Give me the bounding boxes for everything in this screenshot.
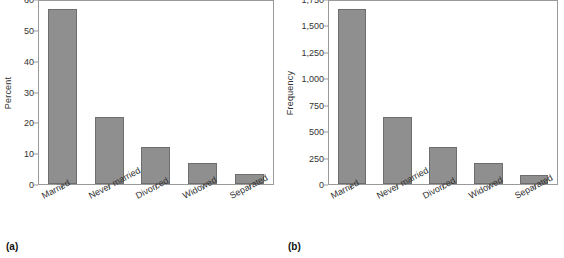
y-tick-label: 500 — [309, 127, 324, 137]
x-axis-tick-labels-a: MarriedNever marriedDivorcedWidowedSepar… — [38, 192, 274, 242]
y-tick-mark — [324, 79, 328, 80]
bar-slot — [226, 1, 273, 184]
plot-area-b — [328, 0, 558, 185]
y-tick-label: 50 — [24, 26, 34, 36]
bar-series-a — [39, 1, 273, 184]
y-tick-mark — [34, 61, 38, 62]
y-axis-tick-labels-b: 02505007501,0001,2501,5001,750 — [282, 0, 324, 185]
y-tick-mark — [324, 158, 328, 159]
y-tick-label: 1,500 — [301, 21, 324, 31]
y-tick-mark — [34, 92, 38, 93]
y-tick-mark — [34, 185, 38, 186]
y-tick-mark — [324, 0, 328, 1]
y-tick-mark — [324, 52, 328, 53]
y-tick-label: 30 — [24, 88, 34, 98]
y-tick-label: 1,000 — [301, 74, 324, 84]
y-tick-label: 40 — [24, 57, 34, 67]
y-tick-label: 20 — [24, 118, 34, 128]
panel-caption-b: (b) — [288, 241, 301, 252]
x-axis-tick-labels-b: MarriedNever marriedDivorcedWidowedSepar… — [328, 192, 558, 242]
y-tick-mark — [324, 105, 328, 106]
y-tick-label: 10 — [24, 149, 34, 159]
y-tick-mark — [34, 123, 38, 124]
bar-series-b — [329, 1, 557, 184]
y-tick-label: 60 — [24, 0, 34, 5]
y-tick-label: 1,250 — [301, 48, 324, 58]
plot-area-a — [38, 0, 274, 185]
y-tick-label: 250 — [309, 154, 324, 164]
panel-caption-a: (a) — [6, 241, 18, 252]
bar-married — [48, 9, 77, 184]
y-tick-mark — [324, 185, 328, 186]
y-tick-label: 750 — [309, 101, 324, 111]
y-tick-label: 1,750 — [301, 0, 324, 5]
bar-slot — [511, 1, 557, 184]
bar-chart-figure: Percent 0102030405060 MarriedNever marri… — [0, 0, 564, 258]
y-tick-mark — [324, 132, 328, 133]
bar-slot — [86, 1, 133, 184]
y-tick-mark — [34, 0, 38, 1]
bar-married — [338, 9, 366, 184]
bar-slot — [39, 1, 86, 184]
bar-slot — [133, 1, 180, 184]
y-tick-mark — [324, 26, 328, 27]
bar-slot — [375, 1, 421, 184]
panel-a: Percent 0102030405060 MarriedNever marri… — [0, 0, 282, 258]
bar-slot — [420, 1, 466, 184]
y-axis-tick-labels-a: 0102030405060 — [0, 0, 34, 185]
y-tick-mark — [34, 30, 38, 31]
bar-slot — [466, 1, 512, 184]
bar-slot — [179, 1, 226, 184]
panel-b: Frequency 02505007501,0001,2501,5001,750… — [282, 0, 564, 258]
y-tick-mark — [34, 154, 38, 155]
bar-slot — [329, 1, 375, 184]
